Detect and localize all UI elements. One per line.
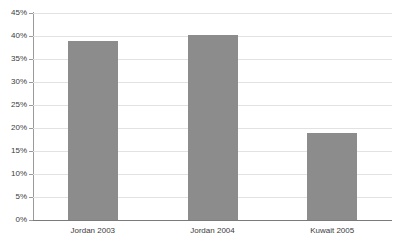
bar-chart: Jordan 2003Jordan 2004Kuwait 2005 0%5%10… <box>0 0 401 244</box>
y-axis-tick-label: 30% <box>0 78 27 86</box>
y-axis-tick-label: 35% <box>0 55 27 63</box>
x-axis-category-label: Jordan 2004 <box>153 226 273 235</box>
y-axis-tick-label: 45% <box>0 9 27 17</box>
bar <box>307 133 357 220</box>
y-axis-tick-label: 15% <box>0 147 27 155</box>
y-axis-tick-label: 10% <box>0 170 27 178</box>
gridline <box>33 13 392 14</box>
plot-area <box>33 13 392 220</box>
axis-baseline <box>33 220 392 221</box>
x-axis-category-label: Kuwait 2005 <box>272 226 392 235</box>
y-axis-tick-label: 5% <box>0 193 27 201</box>
y-axis-tick-label: 25% <box>0 101 27 109</box>
bar <box>188 35 238 220</box>
bar <box>68 41 118 220</box>
y-axis-tick-label: 20% <box>0 124 27 132</box>
y-axis-tick-label: 40% <box>0 32 27 40</box>
y-axis-tick-label: 0% <box>0 216 27 224</box>
x-axis-category-label: Jordan 2003 <box>33 226 153 235</box>
